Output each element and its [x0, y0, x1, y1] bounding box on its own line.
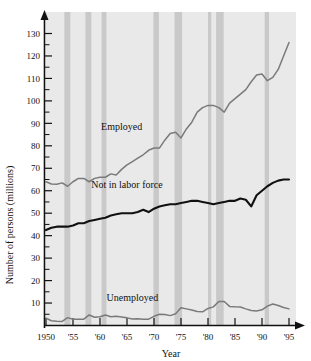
- series-label-not-in-labor-force: Not in labor force: [91, 179, 163, 190]
- x-axis-title: Year: [162, 348, 181, 359]
- y-tick-label: 20: [31, 276, 41, 286]
- y-tick-label: 90: [31, 119, 41, 129]
- y-tick-label: 50: [31, 208, 41, 218]
- x-tick-label: '70: [149, 332, 160, 342]
- recession-band: [153, 12, 158, 325]
- y-tick-label: 60: [31, 186, 41, 196]
- y-axis-title: Number of persons (millions): [4, 166, 16, 285]
- y-tick-label: 40: [31, 231, 41, 241]
- y-tick-label: 110: [27, 74, 41, 84]
- y-tick-label: 30: [31, 253, 41, 263]
- series-label-employed: Employed: [101, 121, 142, 132]
- chart-container: 102030405060708090100110120130 1950'55'6…: [0, 0, 311, 361]
- y-tick-label: 120: [27, 51, 41, 61]
- y-tick-label: 100: [27, 96, 41, 106]
- x-tick-label: 1950: [37, 332, 56, 342]
- recession-band: [64, 12, 70, 325]
- recession-band: [265, 12, 269, 325]
- x-tick-label: '90: [257, 332, 268, 342]
- x-tick-label: '85: [230, 332, 241, 342]
- x-tick-label: '60: [95, 332, 106, 342]
- y-tick-label: 70: [31, 163, 41, 173]
- employment-line-chart: 102030405060708090100110120130 1950'55'6…: [0, 0, 311, 361]
- x-tick-label: '95: [284, 332, 295, 342]
- plot-area-background: [46, 12, 296, 325]
- recession-band: [85, 12, 91, 325]
- x-tick-label: '65: [122, 332, 133, 342]
- recession-band: [208, 12, 211, 325]
- series-label-unemployed: Unemployed: [107, 292, 159, 303]
- y-tick-label: 80: [31, 141, 41, 151]
- y-tick-label: 10: [31, 298, 41, 308]
- x-tick-label: '75: [176, 332, 187, 342]
- x-tick-label: '80: [203, 332, 214, 342]
- recession-band: [216, 12, 224, 325]
- recession-band: [175, 12, 183, 325]
- recession-band: [102, 12, 107, 325]
- x-axis-arrowhead: [295, 322, 305, 330]
- x-tick-label: '55: [68, 332, 79, 342]
- plot-background: [46, 12, 296, 325]
- y-tick-label: 130: [27, 29, 41, 39]
